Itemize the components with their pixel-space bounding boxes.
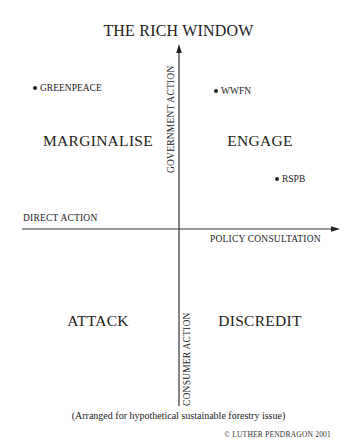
policy-consultation-label: POLICY CONSULTATION [210,234,321,244]
copyright: © LUTHER PENDRAGON 2001 [224,430,331,439]
consumer-action-label: CONSUMER ACTION [182,312,192,406]
diagram-title: THE RICH WINDOW [0,22,357,40]
quadrant-engage: ENGAGE [227,132,293,150]
arrow-right-icon [331,226,340,232]
quadrant-marginalise: MARGINALISE [43,132,153,150]
org-label: RSPB [282,174,305,184]
org-label: WWFN [221,86,251,96]
org-wwfn: WWFN [214,86,251,96]
arrow-up-icon [176,44,182,53]
org-label: GREENPEACE [40,83,102,93]
quadrant-discredit: DISCREDIT [218,312,302,330]
caption: (Arranged for hypothetical sustainable f… [0,410,357,421]
bullet-dot-icon [214,89,218,93]
direct-action-label: DIRECT ACTION [23,213,97,223]
org-greenpeace: GREENPEACE [33,83,102,93]
quadrant-attack: ATTACK [67,312,129,330]
bullet-dot-icon [275,177,279,181]
bullet-dot-icon [33,86,37,90]
org-rspb: RSPB [275,174,305,184]
government-action-label: GOVERNMENT ACTION [166,66,176,173]
